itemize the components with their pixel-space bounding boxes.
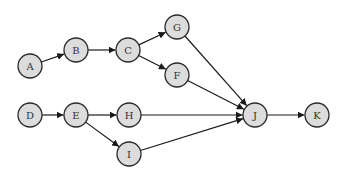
node-e: E — [64, 103, 88, 127]
node-label: K — [313, 110, 321, 121]
node-g: G — [165, 15, 189, 39]
node-label: D — [26, 110, 34, 121]
node-label: I — [127, 149, 131, 160]
nodes-layer: ABCGFDEHIJK — [18, 15, 329, 166]
node-label: E — [72, 110, 79, 121]
node-label: H — [125, 110, 134, 121]
node-label: J — [252, 110, 257, 121]
node-label: G — [173, 22, 181, 33]
node-label: F — [174, 70, 181, 81]
node-b: B — [64, 38, 88, 62]
node-a: A — [18, 54, 42, 78]
directed-graph: ABCGFDEHIJK — [0, 0, 342, 175]
edge-a-to-b — [41, 54, 64, 62]
edge-c-to-g — [139, 32, 166, 45]
edge-i-to-j — [140, 119, 243, 151]
node-label: A — [25, 61, 34, 72]
node-i: I — [117, 142, 141, 166]
node-h: H — [117, 103, 141, 127]
node-j: J — [243, 103, 267, 127]
node-c: C — [116, 38, 140, 62]
edge-c-to-f — [139, 55, 166, 69]
node-d: D — [18, 103, 42, 127]
edge-e-to-i — [86, 122, 119, 146]
node-label: C — [124, 45, 132, 56]
edge-f-to-j — [188, 80, 244, 109]
node-k: K — [305, 103, 329, 127]
node-f: F — [165, 63, 189, 87]
node-label: B — [72, 45, 79, 56]
